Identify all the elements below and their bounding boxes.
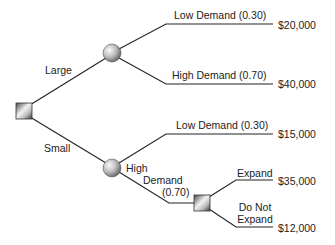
label-small-high-demand-3: (0.70)	[162, 187, 189, 198]
label-small-high-demand-1: High	[126, 163, 148, 174]
chance-node-large	[103, 44, 121, 62]
branch-small-low-line	[119, 134, 273, 163]
decision-tree-diagram	[0, 0, 335, 245]
payoff-small-low: $15,000	[278, 129, 316, 140]
payoff-expand: $35,000	[278, 176, 316, 187]
label-small-high-demand-2: Demand	[143, 175, 183, 186]
label-expand: Expand	[237, 168, 273, 179]
expand-decision-node	[194, 195, 210, 211]
chance-node-small	[103, 159, 121, 177]
label-do-not-expand-2: Expand	[235, 214, 275, 225]
label-small: Small	[44, 143, 70, 154]
payoff-large-high: $40,000	[278, 79, 316, 90]
branch-expand-line	[209, 180, 273, 197]
branch-small-line	[30, 117, 106, 163]
branch-large-low-line	[119, 24, 273, 49]
label-large-low-demand: Low Demand (0.30)	[174, 10, 266, 21]
payoff-not-expand: $12,000	[278, 223, 316, 234]
payoff-large-low: $20,000	[278, 20, 316, 31]
label-do-not-expand-1: Do Not	[237, 202, 273, 213]
label-large-high-demand: High Demand (0.70)	[172, 70, 267, 81]
label-small-low-demand: Low Demand (0.30)	[176, 120, 268, 131]
label-large: Large	[45, 65, 72, 76]
root-decision-node	[16, 103, 32, 119]
